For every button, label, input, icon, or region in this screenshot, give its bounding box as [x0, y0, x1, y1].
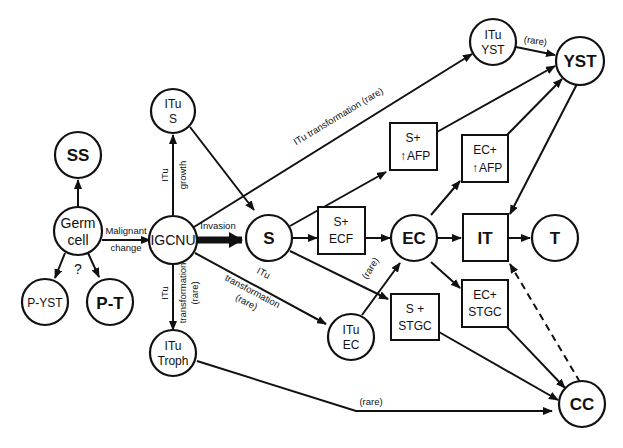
svg-text:STGC: STGC [398, 319, 432, 333]
node-igcnu: IGCNU [149, 216, 197, 264]
svg-text:IT: IT [477, 229, 493, 248]
label-cc-rare: (rare) [359, 396, 382, 407]
edge-ec-ecafp [431, 181, 460, 215]
svg-text:YST: YST [563, 52, 597, 71]
edge-ec-ecstgc [431, 262, 460, 288]
svg-text:S+: S+ [333, 215, 348, 229]
label-ec-tr-1: ITu [255, 265, 272, 281]
node-s: S [246, 215, 292, 261]
svg-text:AFP: AFP [407, 149, 430, 163]
svg-text:Troph: Troph [158, 354, 189, 368]
edge-yst-it [510, 84, 577, 214]
node-cc: CC [559, 381, 605, 427]
svg-text:EC+: EC+ [473, 143, 497, 157]
edge-germ-pt [88, 253, 99, 277]
svg-text:EC+: EC+ [473, 288, 497, 302]
svg-text:ITu: ITu [485, 28, 502, 42]
node-germ-cell: Germ cell [54, 207, 102, 255]
svg-text:Germ: Germ [61, 215, 96, 231]
edge-ecstgc-cc [506, 326, 565, 388]
svg-text:STGC: STGC [468, 305, 502, 319]
svg-text:S+: S+ [405, 131, 420, 145]
node-s-ecf: S+ ECF [318, 207, 365, 254]
edge-germ-pyst [55, 253, 65, 278]
edge-ituyst-yst [516, 47, 555, 55]
svg-text:ITu: ITu [165, 339, 182, 353]
node-itu-troph: ITu Troph [150, 330, 196, 376]
label-yst-rare: (rare) [523, 33, 548, 47]
svg-text:ECF: ECF [329, 232, 353, 246]
node-s-afp: S+ ↑ AFP [390, 123, 437, 170]
germ-cell-tumor-histogenesis-diagram: Malignant change Invasion ITu growth ITu… [0, 0, 623, 448]
label-malignant: Malignant [105, 225, 147, 236]
label-itu-growth-1: ITu [159, 168, 170, 181]
svg-text:IGCNU: IGCNU [150, 232, 195, 248]
svg-text:SS: SS [67, 146, 90, 165]
label-troph-1: ITu [159, 286, 170, 299]
svg-text:ITu: ITu [165, 97, 182, 111]
node-ss: SS [55, 132, 101, 178]
svg-text:EC: EC [343, 338, 360, 352]
svg-text:↑: ↑ [472, 161, 478, 175]
node-itu-s: ITu S [151, 89, 195, 133]
label-troph-2: transformation [177, 263, 188, 324]
svg-text:AFP: AFP [479, 161, 502, 175]
edge-cc-it-dashed [510, 264, 580, 382]
node-itu-yst: ITu YST [470, 19, 516, 65]
label-change: change [110, 242, 141, 253]
node-ec-stgc: EC+ STGC [462, 280, 508, 327]
node-s-stgc: S + STGC [391, 294, 439, 340]
label-ec-rare: (rare) [359, 255, 381, 281]
svg-text:T: T [550, 229, 561, 248]
label-troph-3: (rare) [189, 281, 200, 304]
node-it: IT [463, 214, 508, 261]
edge-itus-s [190, 127, 254, 210]
node-itu-ec: ITu EC [328, 314, 374, 360]
svg-text:ITu: ITu [343, 323, 360, 337]
node-p-t: P-T [87, 279, 133, 325]
node-ec-afp: EC+ ↑ AFP [462, 135, 508, 182]
svg-text:↑: ↑ [400, 149, 406, 163]
question-mark: ? [74, 261, 82, 277]
node-t: T [532, 215, 578, 261]
svg-text:YST: YST [481, 43, 505, 57]
svg-text:S +: S + [406, 302, 424, 316]
svg-text:CC: CC [570, 395, 595, 414]
label-itu-growth-2: growth [177, 161, 188, 190]
svg-text:S: S [169, 112, 177, 126]
node-p-yst: P-YST [22, 279, 68, 325]
svg-text:EC: EC [402, 229, 426, 248]
label-invasion: Invasion [200, 220, 235, 231]
node-ec: EC [391, 215, 437, 261]
svg-text:cell: cell [67, 232, 88, 248]
svg-text:P-YST: P-YST [27, 296, 63, 310]
edge-safp-yst [437, 66, 555, 132]
node-yst: YST [556, 37, 604, 85]
edge-sstgc-cc [439, 332, 558, 400]
svg-text:P-T: P-T [96, 294, 124, 313]
svg-text:S: S [263, 229, 274, 248]
